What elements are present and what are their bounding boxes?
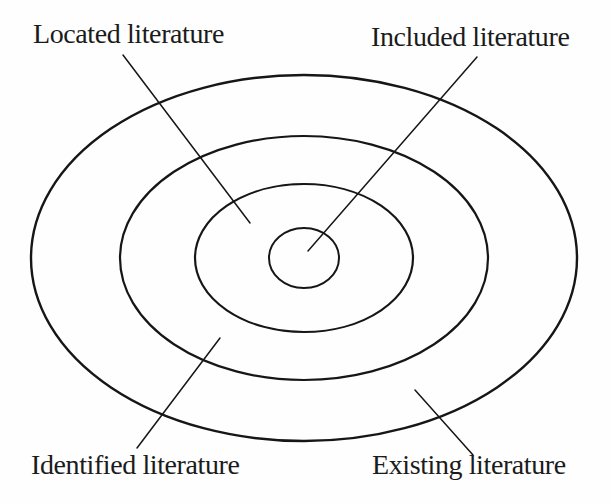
located-leader-line xyxy=(123,55,250,223)
existing-ellipse xyxy=(31,75,577,441)
included-ellipse xyxy=(269,228,339,288)
existing-literature-label: Existing literature xyxy=(372,451,566,479)
literature-rings-figure: Located literature Included literature I… xyxy=(0,0,611,504)
identified-ellipse xyxy=(120,136,488,380)
identified-literature-label: Identified literature xyxy=(31,451,240,479)
included-literature-label: Included literature xyxy=(371,23,569,51)
concentric-ellipses-diagram xyxy=(0,0,611,504)
located-literature-label: Located literature xyxy=(33,20,224,48)
identified-leader-line xyxy=(137,338,220,448)
located-ellipse xyxy=(195,184,413,332)
